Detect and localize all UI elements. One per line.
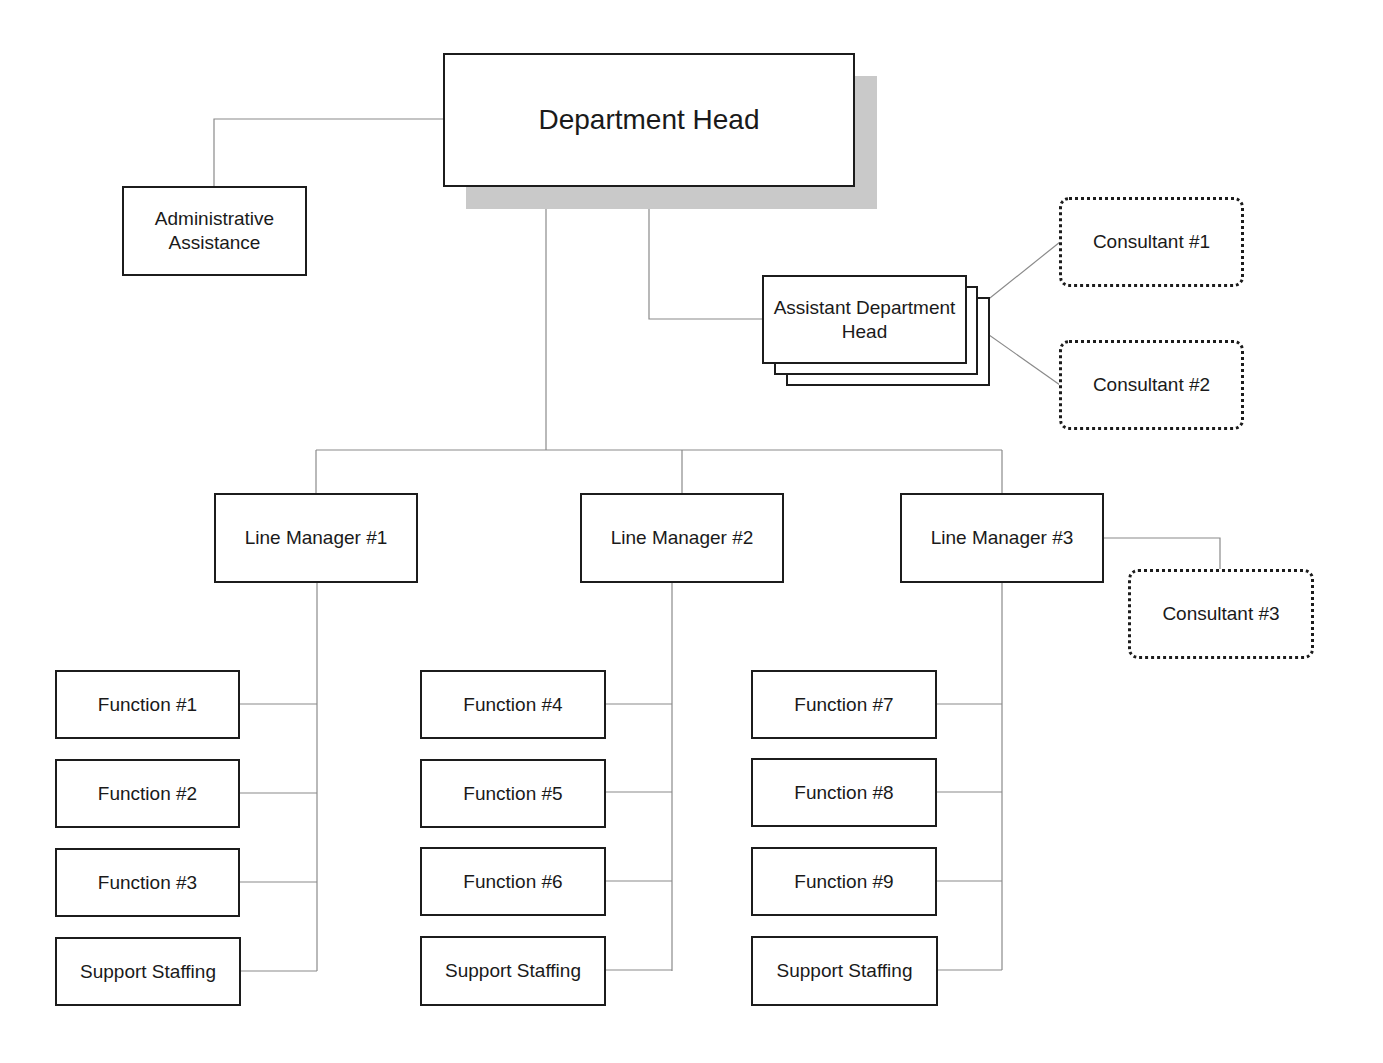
support-staffing-1-label: Support Staffing — [80, 960, 216, 984]
consultant-3-box[interactable]: Consultant #3 — [1128, 569, 1314, 659]
function-1-box[interactable]: Function #1 — [55, 670, 240, 739]
function-5-box[interactable]: Function #5 — [420, 759, 606, 828]
function-1-label: Function #1 — [98, 693, 197, 717]
function-7-box[interactable]: Function #7 — [751, 670, 937, 739]
support-staffing-3-label: Support Staffing — [777, 959, 913, 983]
function-9-label: Function #9 — [794, 870, 893, 894]
function-2-label: Function #2 — [98, 782, 197, 806]
support-staffing-2-label: Support Staffing — [445, 959, 581, 983]
assistant-department-head-label: Assistant Department Head — [774, 296, 956, 344]
support-staffing-3-box[interactable]: Support Staffing — [751, 936, 938, 1006]
function-5-label: Function #5 — [463, 782, 562, 806]
consultant-1-box[interactable]: Consultant #1 — [1059, 197, 1244, 287]
consultant-1-label: Consultant #1 — [1093, 231, 1210, 253]
line-manager-1-label: Line Manager #1 — [245, 526, 388, 550]
function-4-label: Function #4 — [463, 693, 562, 717]
function-3-label: Function #3 — [98, 871, 197, 895]
consultant-3-label: Consultant #3 — [1162, 603, 1279, 625]
function-7-label: Function #7 — [794, 693, 893, 717]
function-6-label: Function #6 — [463, 870, 562, 894]
line-manager-2-box[interactable]: Line Manager #2 — [580, 493, 784, 583]
consultant-2-label: Consultant #2 — [1093, 374, 1210, 396]
department-head-box[interactable]: Department Head — [443, 53, 855, 187]
support-staffing-1-box[interactable]: Support Staffing — [55, 937, 241, 1006]
function-2-box[interactable]: Function #2 — [55, 759, 240, 828]
function-6-box[interactable]: Function #6 — [420, 847, 606, 916]
line-manager-1-box[interactable]: Line Manager #1 — [214, 493, 418, 583]
function-8-label: Function #8 — [794, 781, 893, 805]
function-9-box[interactable]: Function #9 — [751, 847, 937, 916]
line-manager-3-label: Line Manager #3 — [931, 526, 1074, 550]
line-manager-2-label: Line Manager #2 — [611, 526, 754, 550]
line-manager-3-box[interactable]: Line Manager #3 — [900, 493, 1104, 583]
department-head-label: Department Head — [538, 104, 759, 136]
function-3-box[interactable]: Function #3 — [55, 848, 240, 917]
administrative-assistance-label: Administrative Assistance — [155, 207, 274, 255]
function-8-box[interactable]: Function #8 — [751, 758, 937, 827]
org-chart-canvas: Department Head Administrative Assistanc… — [0, 0, 1383, 1063]
assistant-department-head-box[interactable]: Assistant Department Head — [762, 275, 967, 364]
consultant-2-box[interactable]: Consultant #2 — [1059, 340, 1244, 430]
support-staffing-2-box[interactable]: Support Staffing — [420, 936, 606, 1006]
administrative-assistance-box[interactable]: Administrative Assistance — [122, 186, 307, 276]
function-4-box[interactable]: Function #4 — [420, 670, 606, 739]
